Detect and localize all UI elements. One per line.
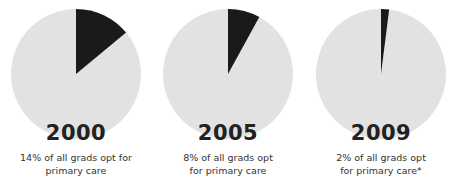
caption-line: for primary care xyxy=(152,164,304,177)
caption-line: 2% of all grads opt xyxy=(305,151,454,164)
pie-chart-2005: 2005 8% of all grads opt for primary car… xyxy=(152,0,304,185)
caption: 8% of all grads opt for primary care xyxy=(152,151,304,177)
year-label: 2000 xyxy=(0,121,152,145)
caption-line: primary care xyxy=(0,164,152,177)
caption: 14% of all grads opt for primary care xyxy=(0,151,152,177)
caption: 2% of all grads opt for primary care* xyxy=(305,151,454,177)
pie-chart-2000: 2000 14% of all grads opt for primary ca… xyxy=(0,0,152,185)
pie-chart-2009: 2009 2% of all grads opt for primary car… xyxy=(305,0,454,185)
caption-line: 14% of all grads opt for xyxy=(0,151,152,164)
year-label: 2009 xyxy=(305,121,454,145)
caption-line: for primary care* xyxy=(305,164,454,177)
year-label: 2005 xyxy=(152,121,304,145)
caption-line: 8% of all grads opt xyxy=(152,151,304,164)
